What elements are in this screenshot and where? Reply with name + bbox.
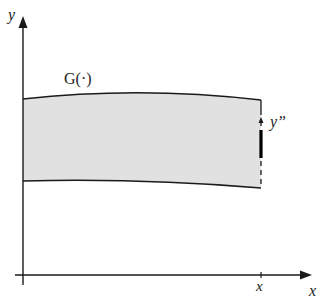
x-tick-label: x: [255, 278, 263, 294]
curve-label: G(·): [64, 70, 92, 88]
y-axis-arrow-icon: [19, 16, 28, 28]
x-axis-arrow-icon: [300, 271, 312, 280]
diagram-canvas: y x x G(·) y”: [0, 0, 326, 301]
diagram-svg: y x x G(·) y”: [0, 0, 326, 301]
x-axis-label: x: [308, 282, 316, 299]
shaded-region: [23, 93, 261, 188]
y-axis-label: y: [6, 6, 16, 24]
marker-label: y”: [268, 113, 286, 131]
